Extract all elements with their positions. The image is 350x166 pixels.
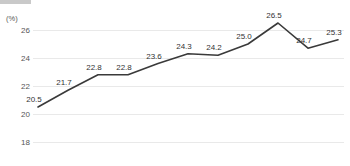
chart-screenshot: (%) 262422201816 20.521.722.822.823.624.… — [0, 0, 350, 166]
x-tick-label-cropped — [338, 161, 340, 166]
x-tick-label-cropped — [98, 161, 100, 166]
data-label: 23.6 — [146, 52, 162, 61]
x-tick-label-cropped — [68, 161, 70, 166]
x-tick-label-cropped — [158, 161, 160, 166]
x-tick-label-cropped — [188, 161, 190, 166]
data-label: 22.8 — [116, 63, 132, 72]
x-tick-label-cropped — [128, 161, 130, 166]
line-chart: (%) 262422201816 20.521.722.822.823.624.… — [0, 0, 350, 166]
data-label: 24.7 — [296, 36, 312, 45]
data-label: 22.8 — [86, 63, 102, 72]
data-label: 25.0 — [236, 32, 252, 41]
data-label: 24.2 — [206, 43, 222, 52]
data-label: 25.3 — [326, 28, 342, 37]
series-line — [38, 23, 338, 107]
x-tick-label-cropped — [278, 161, 280, 166]
x-tick-label-cropped — [38, 161, 40, 166]
x-tick-label-cropped — [218, 161, 220, 166]
data-label: 20.5 — [26, 95, 42, 104]
data-label: 24.3 — [176, 42, 192, 51]
data-label: 26.5 — [266, 11, 282, 20]
x-tick-label-cropped — [308, 161, 310, 166]
x-tick-label-cropped — [248, 161, 250, 166]
data-line-plot — [0, 0, 350, 166]
data-label: 21.7 — [56, 78, 72, 87]
